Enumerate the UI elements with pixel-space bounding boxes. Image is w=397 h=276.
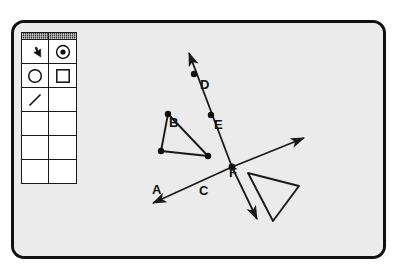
palette-titlebar-left (22, 33, 49, 40)
line-segment-icon (27, 92, 43, 108)
tool-empty[interactable] (22, 136, 49, 159)
tool-row (22, 112, 76, 136)
segment-AB[interactable] (161, 114, 168, 151)
tool-point[interactable] (49, 40, 76, 63)
geometry-app-window: A B C D E F (11, 20, 386, 259)
tool-empty[interactable] (49, 136, 76, 159)
tool-rectangle[interactable] (49, 64, 76, 87)
tool-empty[interactable] (49, 160, 76, 183)
point-C[interactable] (205, 153, 211, 159)
point-icon (55, 44, 71, 60)
unlabeled-triangle[interactable] (248, 173, 299, 221)
tool-row (22, 136, 76, 160)
point-label-F: F (229, 166, 237, 179)
tool-empty[interactable] (49, 88, 76, 111)
tool-row (22, 64, 76, 88)
point-label-A: A (152, 183, 161, 196)
tool-row (22, 88, 76, 112)
arrow-pointer-icon (28, 44, 43, 59)
rays-group (153, 53, 304, 219)
tool-segment[interactable] (22, 88, 49, 111)
tool-empty[interactable] (49, 112, 76, 135)
tool-empty[interactable] (22, 160, 49, 183)
tool-circle[interactable] (22, 64, 49, 87)
tool-row (22, 40, 76, 64)
tool-select[interactable] (22, 40, 49, 63)
screenshot-root: A B C D E F (0, 0, 397, 276)
point-label-C: C (199, 184, 208, 197)
tool-empty[interactable] (22, 112, 49, 135)
point-label-E: E (214, 118, 223, 131)
point-label-D: D (200, 78, 209, 91)
tool-palette[interactable] (21, 32, 77, 184)
palette-titlebar-right (49, 33, 76, 40)
point-A[interactable] (158, 148, 164, 154)
segment-AC[interactable] (161, 151, 208, 156)
point-label-B: B (169, 116, 178, 129)
circle-icon (27, 68, 43, 84)
ray-DEF-upward[interactable] (189, 53, 232, 167)
ray-through-F-northeast[interactable] (232, 138, 304, 167)
ray-through-F-southwest[interactable] (153, 167, 232, 203)
square-icon (55, 68, 71, 84)
palette-titlebar[interactable] (22, 33, 76, 40)
tool-row (22, 160, 76, 183)
point-D[interactable] (191, 71, 197, 77)
